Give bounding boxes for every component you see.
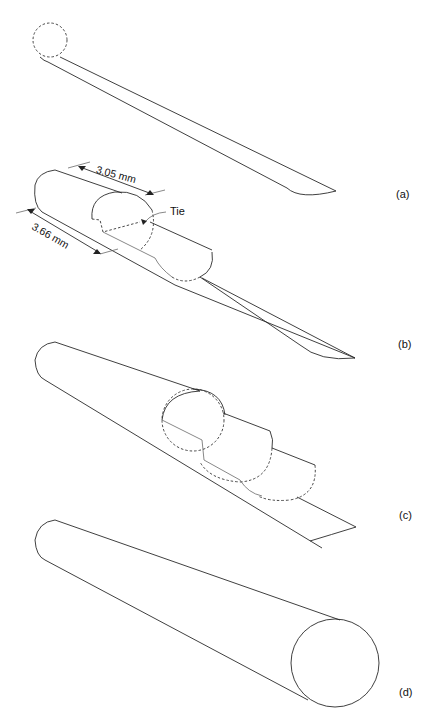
panel-label-a: (a): [396, 188, 409, 200]
strip-upper-long: [202, 278, 355, 358]
second-roll-hidden: [172, 277, 200, 281]
c-top-edge: [55, 342, 200, 391]
c-third-roll-hidden: [258, 465, 315, 501]
panel-label-c: (c): [399, 509, 412, 521]
strip-upper-edge: [150, 222, 212, 250]
dim-bottom-extension-right: [100, 249, 118, 254]
panel-a-drawing: [33, 23, 336, 195]
tie-leader: [145, 212, 166, 222]
panel-d-drawing: [35, 520, 379, 707]
c-strip-end: [310, 527, 356, 541]
d-bottom-edge: [45, 560, 308, 700]
roll-front-arc: [92, 192, 152, 219]
tie-arrow: [141, 219, 147, 225]
tie-dashed-line: [92, 219, 140, 232]
strip-bottom-long-edge: [42, 212, 355, 358]
cylinder-left-cap: [35, 170, 55, 212]
inner-seam: [103, 232, 172, 277]
tie-label: Tie: [170, 205, 185, 217]
strip-mid-edge: [200, 277, 300, 345]
c-left-cap: [35, 342, 55, 380]
strip-bottom-edge: [40, 57, 336, 195]
c-third-roll-top: [272, 448, 315, 465]
c-roll-dashed-circle: [162, 389, 224, 451]
d-end-circle: [291, 619, 379, 707]
dashed-end-circle: [33, 23, 67, 57]
c-second-roll-hidden: [200, 448, 272, 482]
c-inner-seam: [162, 420, 262, 496]
panel-label-b: (b): [398, 338, 411, 350]
panel-label-d: (d): [399, 686, 412, 698]
diagram-canvas: [0, 0, 428, 720]
c-strip-top: [297, 497, 356, 527]
d-left-cap: [35, 520, 55, 560]
c-roll-visible-arc: [193, 389, 225, 415]
c-second-roll-top: [223, 413, 273, 448]
second-roll-arc: [200, 252, 213, 277]
c-roll-circle-top: [162, 391, 200, 420]
c-bottom-edge: [45, 380, 322, 548]
d-top-edge: [55, 520, 340, 620]
panel-c-drawing: [35, 342, 356, 548]
panel-b-drawing: [16, 162, 355, 359]
